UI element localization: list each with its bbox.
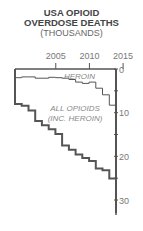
heroin-label: HEROIN: [64, 72, 95, 81]
all-opioids-label: ALL OPIOIDS: [49, 104, 100, 113]
all-opioids-sublabel: (INC. HEROIN): [48, 114, 103, 123]
all-opioids-series: [15, 69, 116, 213]
y-tick-label: 30: [119, 196, 129, 206]
chart-area: 200520102015 0102030 HEROIN ALL OPIOIDS …: [0, 0, 143, 231]
y-tick-label: 20: [119, 152, 129, 162]
y-tick-label: 0: [119, 65, 124, 75]
x-tick-label: 2015: [113, 51, 133, 61]
x-tick-label: 2010: [79, 51, 99, 61]
x-tick-label: 2005: [46, 51, 66, 61]
y-tick-label: 10: [119, 108, 129, 118]
